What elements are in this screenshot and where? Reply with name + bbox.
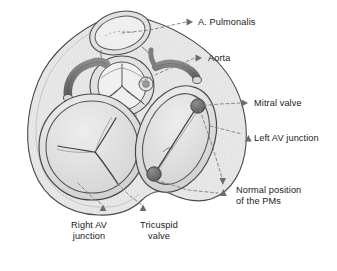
label-mitral-valve: Mitral valve: [254, 98, 302, 109]
label-right-av-junction: Right AV junction: [60, 220, 118, 243]
arrow-a-pulmonalis: [187, 19, 194, 26]
tricuspid-valve-ring: [39, 94, 145, 200]
papillary-muscle-posteromedial: [147, 167, 161, 181]
heart-valve-plane-diagram: A. Pulmonalis Aorta Mitral valve Left AV…: [0, 0, 337, 271]
label-left-av-junction: Left AV junction: [254, 133, 319, 144]
label-a-pulmonalis: A. Pulmonalis: [198, 17, 255, 28]
label-normal-position-pms: Normal position of the PMs: [236, 185, 301, 208]
label-aorta: Aorta: [208, 53, 230, 64]
arrow-mitral-valve: [242, 100, 249, 107]
arrow-tricuspid-valve: [140, 205, 147, 212]
label-tricuspid-valve: Tricuspid valve: [130, 220, 188, 243]
